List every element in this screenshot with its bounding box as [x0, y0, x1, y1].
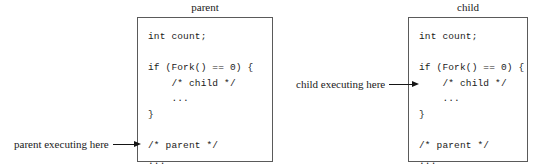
child-code-block: int count; if (Fork() == 0) { /* child *… — [419, 29, 524, 166]
parent-executing-label: parent executing here — [14, 138, 109, 150]
parent-box-title: parent — [137, 1, 273, 14]
parent-executing-annotation: parent executing here — [14, 138, 141, 150]
parent-process-box: int count; if (Fork() == 0) { /* child *… — [137, 17, 273, 162]
right-arrow-icon — [389, 81, 419, 88]
fork-diagram-figure: parent int count; if (Fork() == 0) { /* … — [0, 0, 551, 166]
right-arrow-icon — [113, 141, 141, 148]
child-box-title: child — [408, 1, 528, 14]
parent-code-block: int count; if (Fork() == 0) { /* child *… — [148, 29, 253, 166]
child-executing-annotation: child executing here — [296, 78, 419, 90]
child-process-box: int count; if (Fork() == 0) { /* child *… — [408, 17, 528, 162]
child-executing-label: child executing here — [296, 78, 385, 90]
